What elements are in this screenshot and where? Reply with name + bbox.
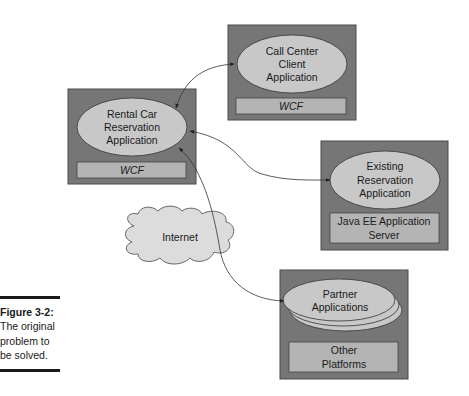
rental-car-label-2: Reservation	[104, 121, 160, 133]
rental-car-label-3: Application	[106, 134, 158, 146]
architecture-diagram: Call Center Client Application WCF Renta…	[0, 0, 469, 396]
existing-label-3: Application	[359, 187, 411, 199]
figure-caption: Figure 3-2: The original problem to be s…	[0, 296, 60, 372]
call-center-label-2: Client	[279, 58, 306, 70]
internet-label: Internet	[162, 231, 198, 243]
existing-platform-2: Server	[369, 229, 400, 241]
existing-reservation-node: Existing Reservation Application Java EE…	[321, 141, 448, 250]
rental-car-label-1: Rental Car	[107, 108, 158, 120]
existing-platform-1: Java EE Application	[338, 215, 431, 227]
partner-app-ellipse	[283, 279, 395, 321]
connector-rental-existing	[190, 131, 330, 180]
caption-bottom-rule	[0, 369, 60, 372]
caption-line-1: The original	[0, 319, 60, 334]
rental-car-node: Rental Car Reservation Application WCF	[68, 89, 196, 184]
partner-platform-2: Platforms	[322, 358, 366, 370]
figure-label: Figure 3-2:	[0, 305, 60, 319]
caption-top-rule	[0, 296, 60, 299]
call-center-label-1: Call Center	[266, 45, 319, 57]
partner-node: Partner Applications Other Platforms	[280, 270, 408, 379]
existing-label-2: Reservation	[357, 174, 413, 186]
partner-label-2: Applications	[312, 301, 369, 313]
caption-line-2: problem to	[0, 334, 60, 349]
call-center-platform: WCF	[279, 100, 303, 112]
rental-car-platform: WCF	[120, 164, 144, 176]
existing-label-1: Existing	[367, 160, 404, 172]
caption-line-3: be solved.	[0, 348, 60, 363]
partner-platform-1: Other	[331, 344, 358, 356]
partner-label-1: Partner	[323, 288, 358, 300]
call-center-node: Call Center Client Application WCF	[228, 25, 356, 120]
call-center-label-3: Application	[266, 71, 318, 83]
